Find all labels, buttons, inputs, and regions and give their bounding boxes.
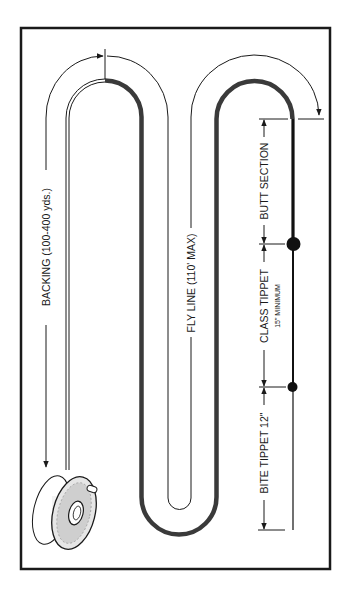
backing-label: BACKING (100-400 yds.)	[40, 188, 52, 306]
class-tippet-note: 15" MINIMUM	[274, 284, 281, 328]
knot-butt-class	[287, 237, 301, 251]
knot-class-bite	[288, 382, 298, 392]
bite-tippet-label: BITE TIPPET 12"	[258, 412, 270, 493]
class-tippet-label: CLASS TIPPET	[258, 268, 270, 343]
fly-line-label: FLY LINE (110' MAX)	[185, 234, 197, 333]
rigging-diagram: BACKING (100-400 yds.) FLY LINE (110' MA…	[0, 0, 348, 593]
butt-section-label: BUTT SECTION	[258, 143, 270, 220]
